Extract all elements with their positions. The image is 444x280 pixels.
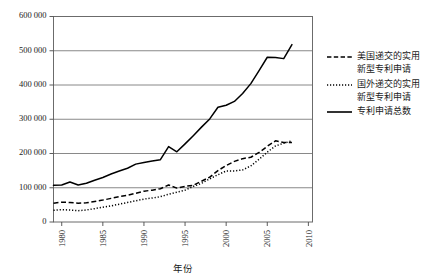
x-axis-tick-label: 1980 [57,230,67,247]
x-axis-title: 年份 [173,263,193,274]
legend-label-line2: 新型专利申请 [357,63,411,74]
x-axis-tick-label: 1995 [180,230,190,247]
y-axis-tick-label: 500 000 [19,45,47,55]
y-axis-tick-label: 600 000 [19,10,47,20]
x-axis-tick-label: 1985 [98,230,108,247]
legend-label: 国外递交的实用 [357,78,420,89]
legend-label-line2: 新型专利申请 [357,91,411,102]
y-axis-tick-label: 100 000 [19,182,47,192]
line-chart-figure: 0100 000200 000300 000400 000500 000600 … [0,0,444,280]
y-axis-tick-label: 0 [42,216,46,226]
x-axis-tick-label: 1990 [139,230,149,247]
y-axis-tick-label: 300 000 [19,113,47,123]
x-axis-tick-label: 2010 [304,230,314,247]
y-axis-tick-label: 200 000 [19,147,47,157]
x-axis-tick-label: 2005 [262,230,272,247]
legend-label: 美国递交的实用 [357,50,420,61]
y-axis-tick-label: 400 000 [19,79,47,89]
legend-label: 专利申请总数 [357,105,411,116]
x-axis-tick-label: 2000 [221,230,231,247]
